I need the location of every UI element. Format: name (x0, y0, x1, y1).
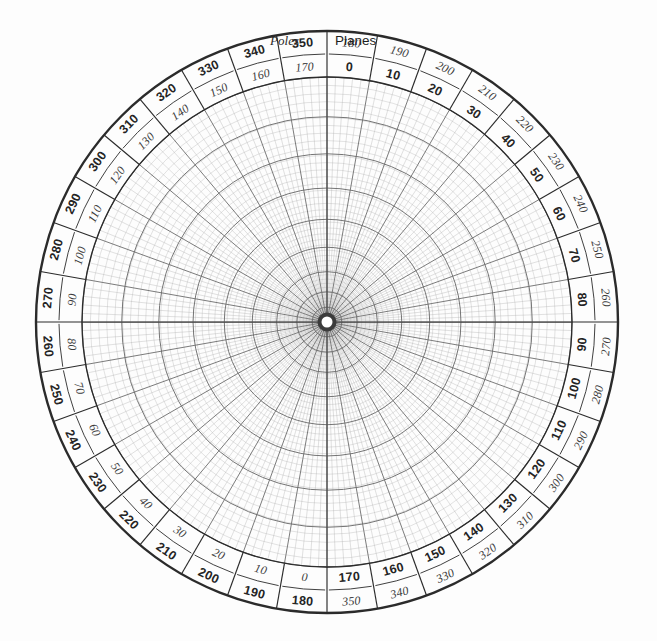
planes-tick-label-70: 70 (566, 247, 583, 264)
poles-tick-label-70: 70 (71, 380, 88, 396)
poles-tick-label-280: 280 (588, 384, 606, 406)
poles-tick-label-260: 260 (598, 288, 614, 308)
planes-tick-label-80: 80 (574, 292, 589, 307)
poles-tick-label-160: 160 (250, 66, 272, 84)
planes-tick-label-270: 270 (40, 286, 56, 309)
poles-tick-label-50: 50 (108, 460, 127, 478)
polar-net-canvas: 0180101902020030210402205023060240702508… (0, 0, 657, 641)
header-layer: Poles Planes (269, 33, 376, 48)
planes-tick-label-190: 190 (242, 583, 266, 602)
planes-tick-label-260: 260 (40, 335, 56, 358)
poles-tick-label-80: 80 (64, 338, 79, 352)
poles-tick-label-90: 90 (64, 293, 79, 307)
poles-tick-label-340: 340 (388, 583, 411, 602)
poles-tick-label-190: 190 (389, 42, 411, 60)
planes-tick-label-0: 0 (345, 60, 353, 75)
poles-tick-label-170: 170 (295, 59, 315, 75)
planes-tick-label-20: 20 (426, 81, 445, 100)
poles-tick-label-40: 40 (137, 494, 156, 513)
poles-tick-label-0: 0 (301, 570, 308, 584)
poles-tick-label-350: 350 (341, 593, 362, 609)
planes-header-label: Planes (335, 33, 377, 48)
planes-tick-label-40: 40 (498, 131, 518, 151)
poles-header-label: Poles (269, 33, 299, 48)
planes-tick-label-170: 170 (338, 569, 361, 585)
poles-tick-label-110: 110 (85, 203, 105, 225)
planes-tick-label-280: 280 (47, 237, 66, 261)
poles-tick-label-30: 30 (170, 522, 189, 541)
poles-tick-label-20: 20 (210, 545, 227, 563)
poles-tick-label-150: 150 (207, 80, 230, 101)
poles-tick-label-10: 10 (253, 561, 269, 578)
planes-tick-label-50: 50 (527, 165, 547, 185)
planes-tick-label-160: 160 (381, 560, 405, 579)
planes-tick-label-90: 90 (574, 337, 589, 352)
poles-tick-label-250: 250 (588, 239, 606, 261)
planes-tick-label-30: 30 (464, 102, 484, 122)
planes-tick-label-60: 60 (550, 204, 569, 223)
poles-tick-label-270: 270 (598, 337, 614, 357)
poles-tick-label-100: 100 (71, 245, 89, 267)
center-hub (318, 313, 337, 332)
planes-tick-label-340: 340 (242, 42, 266, 61)
planes-tick-label-250: 250 (47, 382, 66, 406)
planes-tick-label-180: 180 (291, 593, 314, 609)
polar-net-figure: 0180101902020030210402205023060240702508… (0, 0, 657, 641)
planes-tick-label-10: 10 (385, 66, 402, 83)
planes-tick-label-100: 100 (565, 376, 584, 400)
poles-tick-label-60: 60 (86, 422, 104, 439)
